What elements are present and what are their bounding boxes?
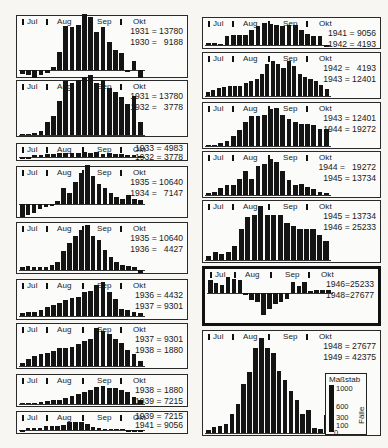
week-bar bbox=[20, 267, 25, 270]
week-bar bbox=[256, 116, 261, 146]
week-bar bbox=[32, 312, 37, 317]
week-bar bbox=[243, 35, 248, 46]
week-bar bbox=[20, 430, 25, 432]
year-total-line: 1931 = 13780 bbox=[130, 26, 183, 37]
zero-baseline bbox=[205, 96, 331, 97]
week-bar bbox=[279, 293, 284, 302]
week-bar bbox=[101, 27, 106, 70]
month-divider-tick bbox=[22, 84, 24, 90]
week-bar bbox=[138, 70, 143, 78]
week-bar bbox=[55, 201, 60, 204]
month-label: Jul bbox=[213, 332, 224, 341]
week-bar bbox=[265, 215, 270, 260]
week-bar bbox=[236, 404, 241, 433]
chart-panel: JulAugSepOkt1943 = 124011944 = 19272 bbox=[202, 102, 381, 149]
week-bar bbox=[107, 334, 112, 366]
week-bar bbox=[274, 162, 279, 195]
week-bar bbox=[226, 252, 231, 260]
week-bar bbox=[101, 154, 106, 157]
scale-tick-label: 0 bbox=[334, 428, 338, 437]
week-bar bbox=[138, 200, 143, 205]
week-bar bbox=[114, 262, 119, 270]
week-bar bbox=[323, 241, 328, 260]
week-bar bbox=[67, 422, 72, 430]
week-bar bbox=[70, 27, 75, 70]
month-label: Jul bbox=[27, 17, 38, 26]
week-bar bbox=[247, 372, 252, 433]
week-bar bbox=[138, 313, 143, 316]
month-label: Jul bbox=[213, 104, 224, 113]
week-bar bbox=[101, 282, 106, 316]
week-bar bbox=[63, 348, 68, 366]
week-bar bbox=[249, 30, 254, 45]
week-bar bbox=[94, 83, 99, 135]
month-divider-tick bbox=[82, 415, 84, 421]
month-label: Aug bbox=[243, 332, 258, 341]
week-bar bbox=[57, 101, 62, 135]
month-label: Aug bbox=[57, 325, 72, 334]
week-bar bbox=[299, 30, 304, 45]
month-divider-tick bbox=[208, 21, 210, 27]
week-bar bbox=[206, 256, 211, 260]
week-bar bbox=[256, 166, 261, 195]
month-divider-tick bbox=[22, 19, 24, 25]
year-total-line: 1941 = 9056 bbox=[328, 28, 376, 39]
month-divider-tick bbox=[268, 204, 270, 210]
week-bar bbox=[82, 77, 87, 136]
month-divider-tick bbox=[46, 84, 48, 90]
week-bar bbox=[82, 341, 87, 366]
week-bar bbox=[314, 81, 318, 96]
zero-baseline bbox=[205, 45, 331, 46]
month-divider-tick bbox=[306, 21, 308, 27]
week-bar bbox=[119, 343, 124, 366]
week-bar bbox=[219, 254, 224, 260]
month-divider-tick bbox=[22, 226, 24, 232]
year-totals-legend: 1937 = 93011938 = 1880 bbox=[135, 334, 183, 356]
month-label: Okt bbox=[319, 153, 332, 162]
week-bar bbox=[63, 81, 68, 135]
week-bar bbox=[76, 394, 81, 404]
week-bar bbox=[67, 193, 72, 204]
week-bar bbox=[308, 291, 313, 293]
week-bar bbox=[268, 159, 273, 195]
week-bar bbox=[324, 193, 329, 195]
week-bar bbox=[319, 85, 323, 96]
week-bar bbox=[63, 398, 68, 404]
week-bar bbox=[253, 348, 258, 433]
month-label: Jul bbox=[213, 54, 224, 63]
month-label: Aug bbox=[243, 54, 258, 63]
year-totals-legend: 1933 = 49831932 = 3778 bbox=[135, 144, 183, 162]
week-bar bbox=[79, 173, 84, 205]
scale-tick-label: 600 bbox=[336, 402, 349, 411]
week-bar bbox=[132, 430, 137, 432]
week-bar bbox=[214, 283, 219, 293]
week-bar bbox=[311, 125, 316, 146]
week-bar bbox=[113, 388, 118, 404]
month-label: Sep bbox=[285, 270, 300, 279]
chart-panel: JulAugSepOkt1945 = 137341946 = 25233 bbox=[202, 200, 381, 263]
week-bar bbox=[225, 141, 230, 146]
week-bar bbox=[94, 328, 99, 366]
week-bar bbox=[276, 64, 280, 96]
zero-baseline bbox=[205, 195, 331, 196]
month-divider-tick bbox=[120, 226, 122, 232]
week-bar bbox=[120, 429, 125, 431]
week-bar bbox=[326, 290, 331, 293]
week-bar bbox=[82, 392, 87, 404]
year-totals-legend: 1935 = 106401934 = 7147 bbox=[130, 177, 183, 199]
year-total-line: 1931 = 13780 bbox=[130, 91, 183, 102]
week-bar bbox=[57, 303, 62, 317]
month-label: Aug bbox=[57, 168, 72, 177]
month-label: Sep bbox=[283, 104, 298, 113]
year-total-line: 1943 = 12401 bbox=[323, 113, 376, 124]
week-bar bbox=[45, 70, 50, 73]
week-bar bbox=[206, 145, 211, 147]
year-total-line: 1942 = 4193 bbox=[323, 63, 376, 74]
week-bar bbox=[291, 282, 296, 293]
month-label: Okt bbox=[321, 270, 334, 279]
month-divider-tick bbox=[22, 147, 24, 153]
week-bar bbox=[91, 427, 96, 430]
chart-panel: JulAugSepOkt1937 = 93011938 = 1880 bbox=[16, 323, 188, 369]
year-total-line: 1934 = 7147 bbox=[130, 188, 183, 199]
month-divider-tick bbox=[268, 334, 270, 340]
